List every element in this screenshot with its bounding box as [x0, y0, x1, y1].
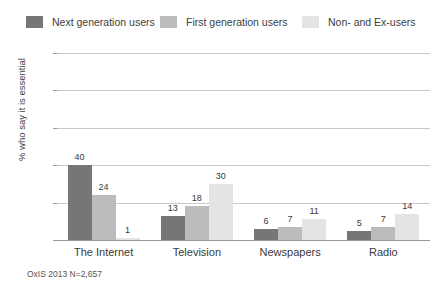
bar-group-1: 131830 — [161, 53, 233, 240]
chart-legend: Next generation usersFirst generation us… — [0, 14, 445, 34]
x-axis-label-3: Radio — [323, 246, 443, 259]
bar-value-label: 24 — [84, 183, 124, 192]
bar — [278, 227, 302, 240]
bar-group-3: 5714 — [347, 53, 419, 240]
bar — [116, 238, 140, 240]
bar-value-label: 11 — [294, 207, 334, 216]
gridline-0 — [57, 240, 430, 241]
bar-groups: 4024113183067115714 — [57, 53, 430, 240]
bar — [302, 219, 326, 240]
legend-item-2: Non- and Ex-users — [302, 14, 416, 30]
bar-chart: Next generation usersFirst generation us… — [0, 0, 445, 295]
bar-value-label: 14 — [387, 202, 427, 211]
plot-area: 020406080100 4024113183067115714 — [57, 53, 430, 240]
bar — [185, 206, 209, 240]
legend-swatch-icon — [302, 16, 319, 28]
bar — [347, 231, 371, 240]
bar — [395, 214, 419, 240]
legend-item-0: Next generation users — [26, 14, 155, 30]
bar-value-label: 1 — [108, 226, 148, 235]
legend-swatch-icon — [160, 16, 177, 28]
legend-item-1: First generation users — [160, 14, 288, 30]
legend-label: First generation users — [186, 16, 288, 28]
bar-group-0: 40241 — [68, 53, 140, 240]
legend-label: Non- and Ex-users — [328, 16, 416, 28]
bar-group-2: 6711 — [254, 53, 326, 240]
bar — [68, 165, 92, 240]
bar-value-label: 40 — [60, 153, 100, 162]
bar — [254, 229, 278, 240]
legend-label: Next generation users — [52, 16, 155, 28]
bar — [209, 184, 233, 240]
bar — [161, 216, 185, 240]
bar-value-label: 30 — [201, 172, 241, 181]
y-axis-title: % who say it is essential — [16, 20, 27, 200]
bar — [371, 227, 395, 240]
source-note: OxIS 2013 N=2,657 — [27, 269, 102, 279]
legend-swatch-icon — [26, 16, 43, 28]
y-tick-mark-0 — [53, 240, 57, 241]
x-axis-category-labels: The InternetTelevisionNewspapersRadio — [57, 246, 430, 262]
